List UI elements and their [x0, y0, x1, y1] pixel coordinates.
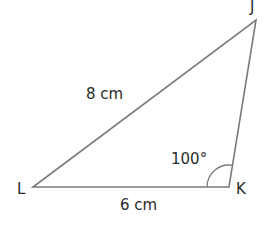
angle-label-k: 100° [171, 150, 207, 168]
vertex-label-l: L [17, 180, 26, 198]
vertex-label-j: J [249, 0, 254, 16]
vertex-label-k: K [236, 180, 247, 198]
side-label-lj: 8 cm [86, 85, 123, 103]
triangle-jkl [33, 20, 256, 187]
angle-arc-k [207, 165, 233, 187]
side-label-lk: 6 cm [120, 196, 157, 214]
triangle-diagram: J K L 8 cm 6 cm 100° [0, 0, 270, 230]
